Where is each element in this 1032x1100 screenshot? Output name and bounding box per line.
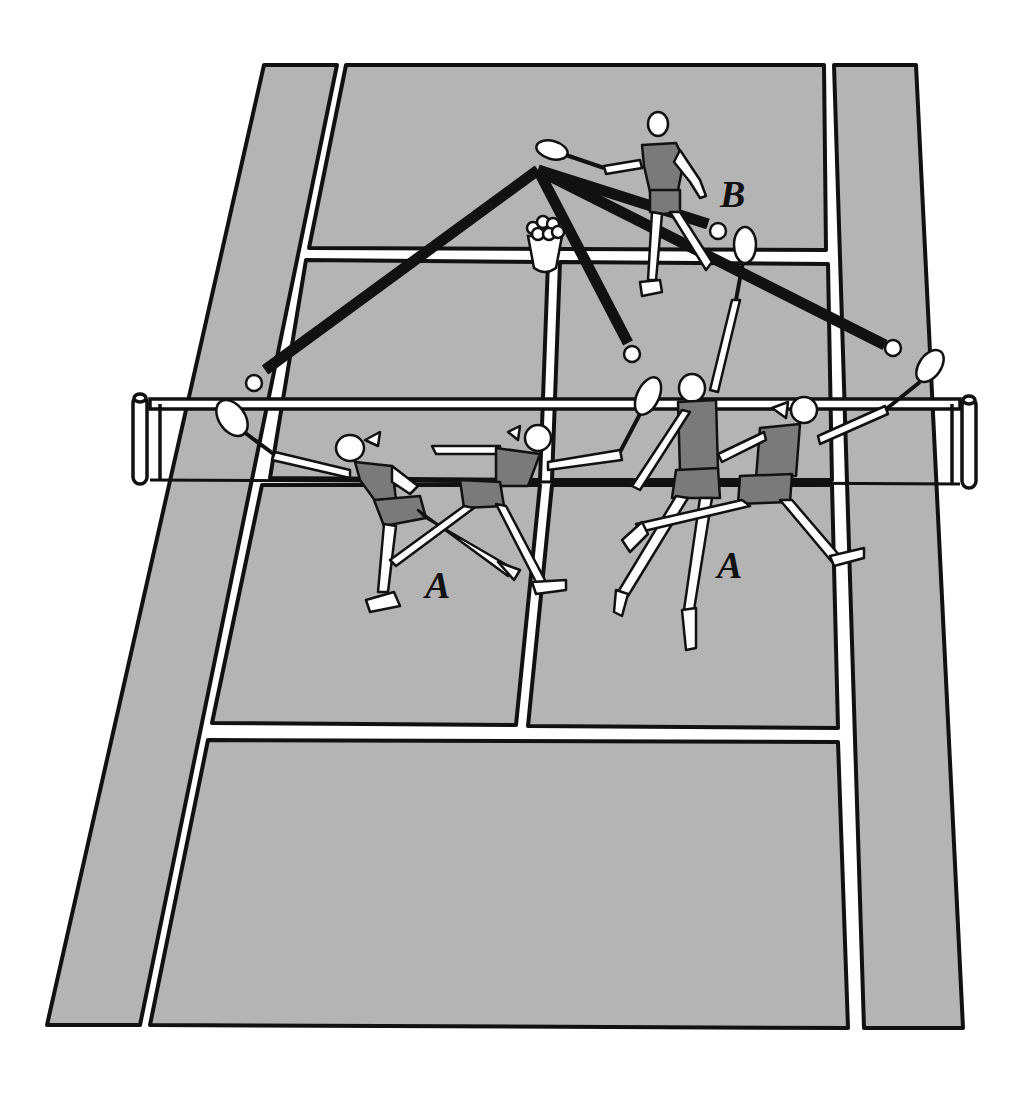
ball-icon <box>885 340 901 356</box>
net-tape <box>150 399 960 409</box>
right-net-post <box>962 398 976 488</box>
ball-icon <box>624 346 640 362</box>
label-a-left: A <box>423 564 450 606</box>
far-left-service-box <box>270 260 548 480</box>
left-net-post <box>133 396 147 484</box>
racket-icon <box>734 227 756 263</box>
right-doubles-alley <box>834 65 963 1028</box>
tennis-drill-diagram: B A <box>0 0 1032 1100</box>
ball-icon <box>710 223 726 239</box>
near-backcourt <box>150 740 848 1028</box>
label-a-right: A <box>715 544 742 586</box>
label-b: B <box>719 173 745 215</box>
ball-icon <box>246 375 262 391</box>
